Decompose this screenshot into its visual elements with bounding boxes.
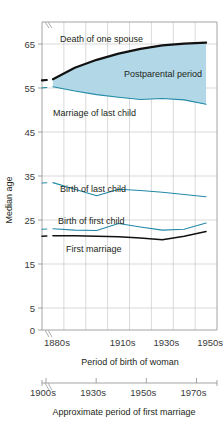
x-tick-label: 1930s bbox=[153, 337, 179, 348]
y-tick-label: 65 bbox=[24, 39, 35, 50]
y-tick-label: 45 bbox=[24, 127, 35, 138]
secondary-axis-tick-labels: 1900s1930s1950s1970s bbox=[30, 387, 207, 398]
x-tick-label: 1950s bbox=[197, 337, 223, 348]
median-age-line-chart: 05152535455565 Median age 1880s1910s1930… bbox=[0, 0, 224, 431]
x-axis-title: Period of birth of woman bbox=[81, 357, 179, 367]
secondary-tick-label: 1970s bbox=[181, 387, 207, 398]
secondary-tick-label: 1950s bbox=[130, 387, 156, 398]
annotation-first-marriage: First marriage bbox=[66, 244, 122, 254]
y-tick-label: 5 bbox=[30, 303, 35, 314]
y-tick-label: 0 bbox=[30, 325, 35, 336]
annotation-marriage-of-last-child: Marriage of last child bbox=[53, 108, 136, 118]
secondary-axis-title: Approximate period of first marriage bbox=[52, 407, 195, 417]
y-tick-label: 15 bbox=[24, 259, 35, 270]
annotation-birth-of-last-child: Birth of last child bbox=[60, 184, 126, 194]
y-axis-tick-labels: 05152535455565 bbox=[24, 39, 35, 336]
y-axis-title: Median age bbox=[4, 176, 14, 223]
x-tick-label: 1880s bbox=[44, 337, 70, 348]
y-tick-label: 55 bbox=[24, 83, 35, 94]
annotation-postparental-period: Postparental period bbox=[124, 69, 202, 79]
y-tick-label: 35 bbox=[24, 171, 35, 182]
secondary-axis-tick-marks bbox=[46, 378, 197, 383]
secondary-tick-label: 1900s bbox=[30, 387, 56, 398]
secondary-tick-label: 1930s bbox=[80, 387, 106, 398]
x-axis-tick-labels: 1880s1910s1930s1950s bbox=[44, 337, 223, 348]
axis-break-bottom bbox=[45, 330, 52, 337]
annotation-birth-of-first-child: Birth of first child bbox=[58, 216, 125, 226]
x-tick-label: 1910s bbox=[110, 337, 136, 348]
y-axis-tick-marks bbox=[38, 44, 42, 330]
chart-container: 05152535455565 Median age 1880s1910s1930… bbox=[0, 0, 224, 431]
annotation-death-of-one-spouse: Death of one spouse bbox=[60, 34, 143, 44]
y-tick-label: 25 bbox=[24, 215, 35, 226]
